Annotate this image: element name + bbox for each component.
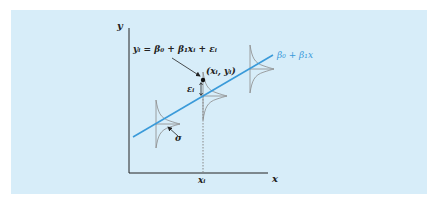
data-point [201, 78, 205, 82]
point-label: (xᵢ, yᵢ) [206, 66, 236, 77]
epsilon-label: εᵢ [187, 84, 194, 94]
equation-pointer-arrow [172, 58, 200, 76]
x-axis-label: x [271, 173, 279, 184]
xi-tick-label: xᵢ [197, 175, 206, 185]
y-axis-label: y [116, 20, 124, 31]
regression-line-label: β₀ + β₁x [276, 50, 313, 60]
error-arrow [200, 83, 203, 96]
gaussian-middle [203, 72, 227, 120]
gaussian-right [250, 45, 274, 93]
model-equation-label: yᵢ = β₀ + β₁xᵢ + εᵢ [132, 44, 217, 54]
regression-diagram: y x xᵢ β₀ + β₁x yᵢ = β₀ + β₁xᵢ + εᵢ (xᵢ,… [0, 0, 433, 201]
regression-line [133, 55, 273, 137]
sigma-label: σ [175, 133, 182, 143]
